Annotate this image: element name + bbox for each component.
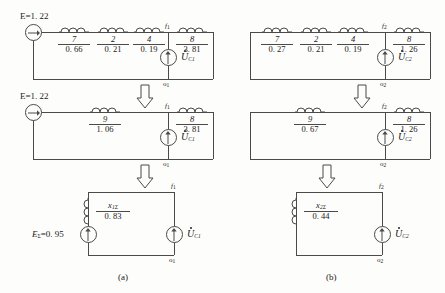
branch-value-3: 4 0. 19	[337, 35, 369, 54]
wire-left	[250, 32, 251, 79]
branch-value-1: 7 0. 66	[58, 35, 90, 54]
source-arrow-up-icon	[85, 228, 91, 241]
wire-top	[88, 192, 174, 193]
reactance-numerator: x1Σ	[96, 201, 130, 211]
inductor-icon	[262, 25, 292, 33]
inductor-icon	[301, 25, 331, 33]
transition-arrow-right-2	[318, 165, 336, 189]
inductor-icon	[134, 25, 164, 33]
inductor-icon	[90, 105, 120, 113]
reactance-value-2: x2Σ 0. 44	[304, 201, 338, 221]
branch-value-1: 9 1. 06	[89, 115, 121, 134]
inductor-icon	[394, 25, 424, 33]
wire-bottom	[296, 255, 382, 256]
voltage-label-uc1: UC1	[181, 131, 195, 142]
inductor-icon	[84, 198, 93, 224]
caption-b: (b)	[326, 272, 337, 282]
wire-left	[250, 112, 251, 159]
emf-label-top-left: E=1. 22	[20, 11, 49, 21]
node-label-f2: f2	[382, 22, 387, 30]
node-label-f1: f1	[171, 182, 176, 190]
caption-a: (a)	[118, 272, 128, 282]
figure-canvas: E=1. 22 7 0. 66 2 0. 21 4 0. 19	[0, 0, 445, 293]
wire-bottom	[33, 79, 213, 80]
transition-arrow-right-1	[353, 85, 371, 109]
voltage-label-uc2: UC2	[398, 51, 412, 62]
node-label-f2: f2	[379, 182, 384, 190]
inductor-icon	[295, 105, 325, 113]
reactance-numerator: x2Σ	[304, 201, 338, 211]
branch-value-2: 2 0. 21	[97, 35, 129, 54]
source-arrow-up-icon	[171, 228, 177, 241]
node-label-f2: f2	[382, 102, 387, 110]
source-arrow-up-icon	[379, 228, 385, 241]
branch-value-1: 7 0. 27	[261, 35, 293, 54]
inductor-icon	[177, 25, 207, 33]
wire-bottom	[250, 79, 430, 80]
branch-value-1: 9 0. 67	[294, 115, 326, 134]
node-label-o1: o1	[169, 256, 175, 264]
voltage-label-uc1: UC1	[187, 228, 201, 239]
wire-right	[430, 32, 431, 79]
emf-sigma-label: EΣ=0. 95	[32, 229, 64, 239]
source-arrow-up-icon	[382, 51, 388, 64]
reactance-value-1: x1Σ 0. 83	[96, 201, 130, 221]
emf-label-mid-left: E=1. 22	[20, 91, 49, 101]
node-label-f1: f1	[165, 22, 170, 30]
wire-right	[174, 192, 175, 255]
inductor-icon	[98, 25, 128, 33]
wire-right	[213, 32, 214, 79]
node-label-o1: o1	[163, 160, 169, 168]
wire-right	[430, 112, 431, 159]
transition-arrow-left-2	[136, 165, 154, 189]
transition-arrow-left-1	[136, 85, 154, 109]
inductor-icon	[338, 25, 368, 33]
node-label-o1: o1	[163, 80, 169, 88]
node-label-o2: o2	[380, 80, 386, 88]
wire-bottom	[250, 159, 430, 160]
branch-value-2: 2 0. 21	[300, 35, 332, 54]
wire-right	[213, 112, 214, 159]
wire-top	[296, 192, 382, 193]
source-arrow-up-icon	[165, 51, 171, 64]
source-arrow-up-icon	[165, 131, 171, 144]
inductor-icon	[177, 105, 207, 113]
inductor-icon	[292, 198, 301, 224]
voltage-label-uc2: UC2	[398, 131, 412, 142]
node-label-f1: f1	[165, 102, 170, 110]
inductor-icon	[59, 25, 89, 33]
wire-bottom	[33, 159, 213, 160]
branch-value-3: 4 0. 19	[133, 35, 165, 54]
source-arrow-right-icon	[28, 110, 40, 116]
node-label-o2: o2	[380, 160, 386, 168]
voltage-label-uc2: UC2	[395, 228, 409, 239]
wire-right	[382, 192, 383, 255]
source-arrow-up-icon	[382, 131, 388, 144]
node-label-o2: o2	[377, 256, 383, 264]
inductor-icon	[394, 105, 424, 113]
source-arrow-right-icon	[28, 30, 40, 36]
wire-bottom	[88, 255, 174, 256]
voltage-label-uc1: UC1	[181, 51, 195, 62]
